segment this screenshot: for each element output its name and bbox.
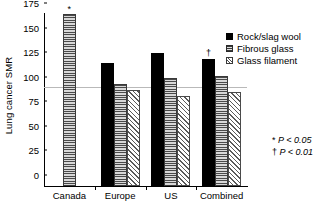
footnote-text: P < 0.05 bbox=[278, 135, 311, 145]
y-tick-50: 50 bbox=[28, 120, 44, 131]
legend-label: Glass filament bbox=[237, 55, 297, 66]
bar-europe-fibrous-glass bbox=[114, 84, 127, 186]
lung-cancer-smr-bar-chart: Lung cancer SMR 0255075100125150175 *† C… bbox=[0, 0, 325, 210]
significance-marker: † bbox=[206, 49, 211, 58]
bar-groups: *† bbox=[44, 14, 247, 186]
y-tick-150: 150 bbox=[23, 22, 44, 33]
legend-item-fibrous-glass: Fibrous glass bbox=[226, 43, 301, 54]
footnotes: * P < 0.05† P < 0.01 bbox=[272, 134, 313, 158]
legend: Rock/slag woolFibrous glassGlass filamen… bbox=[226, 31, 301, 67]
legend-swatch-horiz bbox=[226, 45, 233, 52]
x-label-us: US bbox=[146, 190, 197, 201]
bar-group-us bbox=[146, 14, 197, 186]
y-tick-mark bbox=[44, 3, 47, 4]
significance-marker: * bbox=[68, 5, 72, 14]
x-label-combined: Combined bbox=[196, 190, 247, 201]
y-tick-125: 125 bbox=[23, 47, 44, 58]
bar-europe-rock-slag-wool bbox=[101, 63, 114, 186]
footnote: * P < 0.05 bbox=[272, 134, 313, 146]
bar-us-rock-slag-wool bbox=[151, 53, 164, 186]
y-tick-75: 75 bbox=[28, 96, 44, 107]
bar-combined-glass-filament bbox=[228, 92, 241, 186]
bar-europe-glass-filament bbox=[127, 90, 140, 186]
y-tick-0: 0 bbox=[34, 170, 44, 181]
legend-label: Fibrous glass bbox=[237, 43, 294, 54]
y-tick-175: 175 bbox=[23, 0, 44, 9]
bar-group-europe bbox=[95, 14, 146, 186]
x-label-europe: Europe bbox=[95, 190, 146, 201]
y-tick-100: 100 bbox=[23, 71, 44, 82]
bar-canada-fibrous-glass: * bbox=[63, 14, 76, 186]
footnote: † P < 0.01 bbox=[272, 146, 313, 158]
legend-swatch-solid bbox=[226, 33, 233, 40]
legend-label: Rock/slag wool bbox=[237, 31, 301, 42]
footnote-marker: † bbox=[272, 147, 280, 157]
y-tick-25: 25 bbox=[28, 145, 44, 156]
y-axis-title: Lung cancer SMR bbox=[2, 0, 16, 190]
x-label-canada: Canada bbox=[44, 190, 95, 201]
legend-swatch-diag bbox=[226, 57, 233, 64]
bar-combined-rock-slag-wool: † bbox=[202, 59, 215, 186]
legend-item-glass-filament: Glass filament bbox=[226, 55, 301, 66]
legend-item-rock-slag-wool: Rock/slag wool bbox=[226, 31, 301, 42]
x-axis-labels: CanadaEuropeUSCombined bbox=[44, 190, 247, 201]
bar-us-fibrous-glass bbox=[164, 78, 177, 186]
bar-group-canada: * bbox=[44, 14, 95, 186]
footnote-text: P < 0.01 bbox=[280, 147, 313, 157]
plot-area: 0255075100125150175 *† bbox=[44, 14, 247, 186]
bar-combined-fibrous-glass bbox=[215, 76, 228, 186]
bar-us-glass-filament bbox=[177, 96, 190, 186]
